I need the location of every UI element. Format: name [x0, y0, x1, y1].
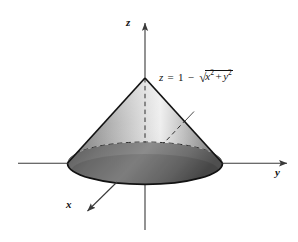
base-inner-shadow — [71, 154, 219, 188]
surface-equation-label: z = 1 − √x2+y2 — [159, 70, 233, 83]
base-shadow-group — [71, 154, 219, 188]
equation-relation: = — [166, 71, 175, 83]
y-axis-label: y — [275, 167, 280, 178]
z-axis-label: z — [126, 17, 130, 28]
equation-radical: √x2+y2 — [198, 70, 233, 83]
equation-constant: 1 — [178, 71, 184, 83]
x-axis-lower-segment — [88, 182, 118, 211]
radicand-plus: + — [214, 70, 223, 82]
cone-diagram-svg — [0, 0, 298, 242]
cone-figure: z y x z = 1 − √x2+y2 — [0, 0, 298, 242]
radicand: x2+y2 — [205, 70, 233, 82]
cone-base — [68, 142, 223, 188]
equation-minus: − — [186, 71, 195, 83]
equation-lhs: z — [159, 71, 163, 83]
radicand-y-exponent: 2 — [228, 68, 232, 77]
x-axis-label: x — [66, 199, 72, 210]
